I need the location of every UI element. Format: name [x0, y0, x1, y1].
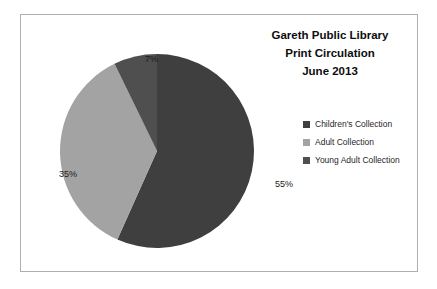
legend-item: Young Adult Collection: [303, 151, 427, 169]
chart-title-line-3: June 2013: [249, 63, 411, 81]
chart-title-line-1: Gareth Public Library: [249, 27, 411, 45]
slice-label-young-adult: 7%: [145, 54, 158, 64]
legend-item-label: Adult Collection: [315, 137, 374, 147]
chart-legend: Children's CollectionAdult CollectionYou…: [303, 115, 427, 169]
legend-swatch-icon: [303, 121, 310, 128]
chart-frame: 7% 35% 55% Gareth Public Library Print C…: [20, 14, 418, 272]
legend-swatch-icon: [303, 157, 310, 164]
slice-label-adult: 35%: [59, 169, 77, 179]
pie-svg: [59, 47, 259, 255]
legend-item-label: Children's Collection: [315, 119, 392, 129]
pie-slice-group: [60, 54, 254, 248]
slice-label-children: 55%: [275, 179, 293, 189]
legend-item: Adult Collection: [303, 133, 427, 151]
pie-chart: 7% 35% 55%: [59, 47, 259, 255]
legend-item: Children's Collection: [303, 115, 427, 133]
legend-item-label: Young Adult Collection: [315, 155, 400, 165]
chart-title: Gareth Public Library Print Circulation …: [249, 27, 411, 80]
chart-title-line-2: Print Circulation: [249, 45, 411, 63]
legend-swatch-icon: [303, 139, 310, 146]
